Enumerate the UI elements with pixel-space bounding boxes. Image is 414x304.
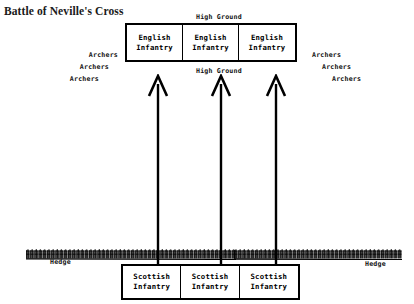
unit-label-line2: Infantry [249,43,286,53]
english-infantry-unit-3: English Infantry [239,25,295,60]
unit-label-line2: Infantry [192,282,229,292]
unit-label-line1: Scottish [250,272,287,282]
unit-label-line1: Scottish [133,272,170,282]
hedge-label-left: Hedge [50,258,71,266]
scottish-advance-arrow-3 [265,74,287,266]
archers-left-label-2: Archers [18,63,118,71]
unit-label-line1: Scottish [192,272,229,282]
scottish-advance-arrow-1 [147,74,169,266]
english-infantry-line: English Infantry English Infantry Englis… [125,23,297,62]
hedge-label-right: Hedge [365,260,386,268]
scottish-infantry-unit-2: Scottish Infantry [181,266,239,298]
scottish-advance-arrow-2 [210,74,232,266]
english-infantry-unit-2: English Infantry [183,25,239,60]
unit-label-line1: English [251,33,283,43]
scottish-infantry-unit-1: Scottish Infantry [123,266,181,298]
archers-right-label-2: Archers [312,63,412,71]
archers-right-label-3: Archers [312,75,412,83]
high-ground-label-top: High Ground [196,13,242,21]
unit-label-line1: English [194,33,226,43]
archers-right-wing: Archers Archers Archers [312,51,412,87]
archers-left-wing: Archers Archers Archers [18,51,118,87]
scottish-infantry-unit-3: Scottish Infantry [240,266,298,298]
hedge-line-right [234,248,402,260]
unit-label-line1: English [138,33,170,43]
page-title: Battle of Neville's Cross [4,5,124,17]
archers-right-label-1: Archers [312,51,412,59]
english-infantry-unit-1: English Infantry [127,25,183,60]
unit-label-line2: Infantry [136,43,173,53]
battle-diagram-canvas: Battle of Neville's Cross High Ground En… [0,0,414,304]
unit-label-line2: Infantry [192,43,229,53]
unit-label-line2: Infantry [133,282,170,292]
archers-left-label-1: Archers [18,51,118,59]
archers-left-label-3: Archers [18,75,118,83]
scottish-infantry-line: Scottish Infantry Scottish Infantry Scot… [121,264,300,300]
unit-label-line2: Infantry [250,282,287,292]
